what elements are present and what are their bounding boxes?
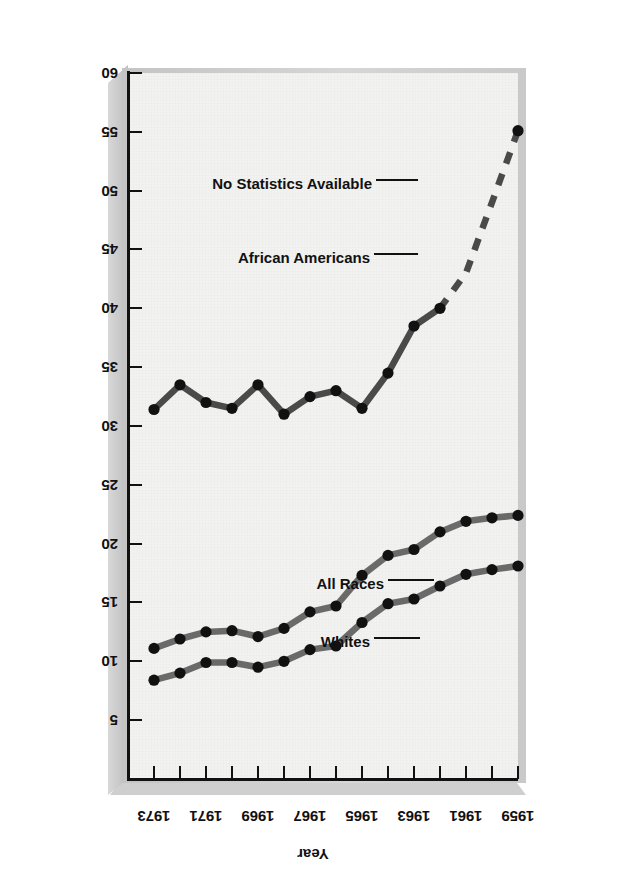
data-point xyxy=(252,631,263,642)
data-point xyxy=(434,580,445,591)
data-point xyxy=(174,379,185,390)
data-point xyxy=(304,391,315,402)
data-point xyxy=(356,403,367,414)
data-point xyxy=(408,593,419,604)
whites-leader-line xyxy=(374,637,420,639)
data-point xyxy=(330,600,341,611)
figure-rotator: Year Percentage of Population Living Bel… xyxy=(0,0,626,871)
data-point xyxy=(226,625,237,636)
no-statistics-leader-line xyxy=(376,179,418,181)
series-dashed-segment xyxy=(440,131,518,309)
data-point xyxy=(200,657,211,668)
data-point xyxy=(512,560,523,571)
african-americans-label: African Americans xyxy=(238,249,370,266)
all-races-leader-line xyxy=(388,579,434,581)
data-point xyxy=(226,403,237,414)
data-point xyxy=(252,662,263,673)
data-point xyxy=(304,644,315,655)
data-point xyxy=(486,512,497,523)
data-point xyxy=(148,643,159,654)
data-point xyxy=(512,510,523,521)
data-point xyxy=(486,564,497,575)
data-point xyxy=(512,125,523,136)
data-point xyxy=(382,368,393,379)
data-point xyxy=(278,623,289,634)
data-point xyxy=(434,526,445,537)
data-point xyxy=(330,385,341,396)
data-point xyxy=(382,550,393,561)
series-layer xyxy=(0,0,626,871)
data-point xyxy=(278,409,289,420)
data-point xyxy=(148,675,159,686)
whites-label: Whites xyxy=(321,633,370,650)
data-point xyxy=(148,404,159,415)
data-point xyxy=(174,633,185,644)
poverty-line-chart: Year Percentage of Population Living Bel… xyxy=(0,0,626,871)
data-point xyxy=(408,544,419,555)
data-point xyxy=(226,657,237,668)
data-point xyxy=(304,606,315,617)
data-point xyxy=(434,303,445,314)
series-line xyxy=(154,308,440,414)
data-point xyxy=(460,569,471,580)
data-point xyxy=(460,516,471,527)
african-americans-leader-line xyxy=(374,253,418,255)
data-point xyxy=(200,626,211,637)
data-point xyxy=(252,379,263,390)
data-point xyxy=(200,397,211,408)
no-statistics-label: No Statistics Available xyxy=(212,175,372,192)
data-point xyxy=(174,668,185,679)
data-point xyxy=(408,320,419,331)
data-point xyxy=(356,617,367,628)
data-point xyxy=(278,656,289,667)
data-point xyxy=(382,598,393,609)
all-races-label: All Races xyxy=(316,575,384,592)
series-african-americans xyxy=(148,125,523,420)
